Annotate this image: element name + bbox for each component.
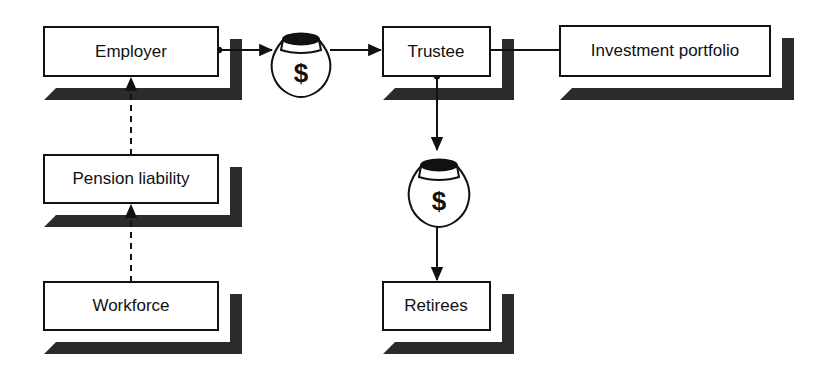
node-pension-liability-label: Pension liability [72,169,190,188]
node-retirees-label: Retirees [404,296,467,315]
money-bag-opening [421,160,457,171]
diagram-canvas: Employer Pension liability Workforce Tru… [0,0,838,385]
node-workforce-label: Workforce [92,296,169,315]
money-bag-dollar-symbol: $ [432,186,447,216]
money-bag-benefit-payment: $ [409,160,469,228]
money-bag-contribution: $ [272,34,331,98]
money-bag-dollar-symbol: $ [294,58,309,88]
money-bag-opening [283,34,319,45]
node-trustee[interactable]: Trustee [383,27,490,76]
nodes: Employer Pension liability Workforce Tru… [44,26,770,330]
node-investment-portfolio-label: Investment portfolio [591,41,739,60]
node-retirees[interactable]: Retirees [383,282,490,330]
pension-flow-diagram: Employer Pension liability Workforce Tru… [0,0,838,385]
node-workforce[interactable]: Workforce [44,282,218,330]
node-pension-liability[interactable]: Pension liability [44,155,218,203]
node-employer[interactable]: Employer [44,27,218,76]
node-trustee-label: Trustee [407,42,464,61]
node-investment-portfolio[interactable]: Investment portfolio [560,26,770,76]
node-employer-label: Employer [95,42,167,61]
